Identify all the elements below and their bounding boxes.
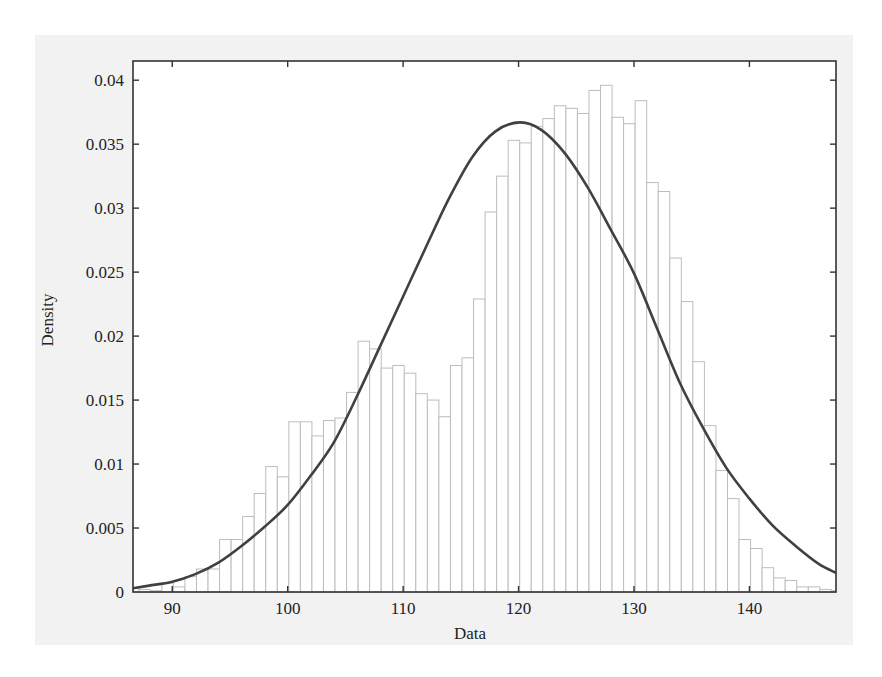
histogram-bar bbox=[751, 548, 763, 592]
y-tick-label: 0.02 bbox=[94, 327, 124, 346]
histogram-bar bbox=[670, 258, 682, 592]
histogram-bar bbox=[785, 580, 797, 592]
histogram-bar bbox=[554, 106, 566, 592]
x-tick-label: 100 bbox=[275, 599, 301, 618]
histogram-chart: 00.0050.010.0150.020.0250.030.0350.04 90… bbox=[0, 0, 882, 677]
histogram-bar bbox=[266, 467, 278, 592]
histogram-bar bbox=[681, 302, 693, 592]
y-axis-title: Density bbox=[38, 294, 58, 347]
histogram-bar bbox=[704, 426, 716, 592]
histogram-bar bbox=[520, 143, 532, 592]
histogram-bar bbox=[427, 400, 439, 592]
histogram-bar bbox=[543, 119, 555, 592]
histogram-bar bbox=[693, 362, 705, 592]
histogram-bar bbox=[612, 117, 624, 592]
histogram-bar bbox=[485, 212, 497, 592]
histogram-bar bbox=[185, 577, 197, 592]
y-tick-label: 0.03 bbox=[94, 199, 124, 218]
histogram-bar bbox=[347, 392, 359, 592]
histogram-bar bbox=[335, 418, 347, 592]
histogram-bar bbox=[762, 568, 774, 592]
histogram-bar bbox=[404, 373, 416, 592]
x-tick-label: 140 bbox=[737, 599, 763, 618]
y-tick-label: 0.005 bbox=[86, 519, 124, 538]
histogram-bar bbox=[277, 477, 289, 592]
histogram-bar bbox=[601, 85, 613, 592]
histogram-bar bbox=[243, 517, 255, 592]
histogram-bar bbox=[439, 417, 451, 592]
histogram-bar bbox=[624, 124, 636, 592]
histogram-bar bbox=[774, 578, 786, 592]
x-tick-label: 90 bbox=[164, 599, 181, 618]
x-tick-label: 110 bbox=[391, 599, 416, 618]
histogram-bar bbox=[635, 101, 647, 592]
histogram-bar bbox=[416, 394, 428, 592]
y-tick-label: 0.04 bbox=[94, 71, 124, 90]
histogram-bar bbox=[323, 421, 335, 592]
histogram-bar bbox=[208, 569, 220, 592]
histogram-bar bbox=[716, 470, 728, 592]
histogram-bar bbox=[531, 126, 543, 592]
histogram-bar bbox=[589, 90, 601, 592]
y-tick-label: 0.015 bbox=[86, 391, 124, 410]
histogram-bar bbox=[254, 493, 266, 592]
histogram-bar bbox=[393, 366, 405, 592]
y-tick-label: 0.01 bbox=[94, 455, 124, 474]
histogram-bar bbox=[220, 540, 232, 592]
y-tick-label: 0 bbox=[116, 583, 125, 602]
histogram-bar bbox=[289, 422, 301, 592]
histogram-bar bbox=[300, 422, 312, 592]
histogram-bar bbox=[647, 183, 659, 592]
histogram-bar bbox=[450, 366, 462, 592]
y-tick-label: 0.025 bbox=[86, 263, 124, 282]
histogram-bar bbox=[462, 358, 474, 592]
histogram-bar bbox=[739, 540, 751, 592]
histogram-bar bbox=[497, 176, 509, 592]
y-tick-label: 0.035 bbox=[86, 135, 124, 154]
histogram-bar bbox=[727, 499, 739, 592]
x-tick-label: 120 bbox=[506, 599, 532, 618]
x-tick-label: 130 bbox=[621, 599, 647, 618]
histogram-bar bbox=[658, 192, 670, 592]
x-axis-title: Data bbox=[454, 624, 486, 644]
histogram-bar bbox=[474, 299, 486, 592]
histogram-bar bbox=[566, 108, 578, 592]
histogram-bar bbox=[370, 349, 382, 592]
histogram-bar bbox=[381, 368, 393, 592]
histogram-bar bbox=[508, 140, 520, 592]
